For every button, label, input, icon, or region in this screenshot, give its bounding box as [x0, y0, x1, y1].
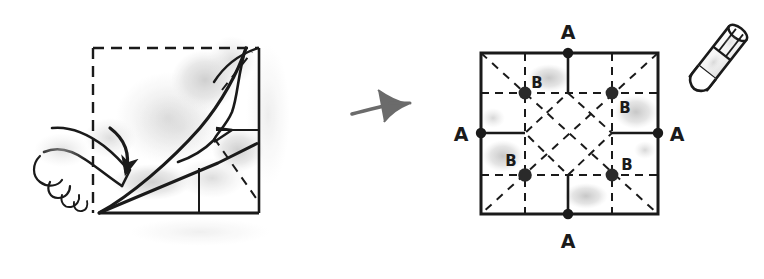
point-b-dot-lower-right	[606, 169, 619, 182]
point-a-label-top: A	[561, 21, 576, 43]
point-a-label-left: A	[454, 123, 469, 145]
origami-diagram-figure: A A A A B B B B	[0, 0, 764, 279]
diagram-canvas: A A A A B B B B	[0, 0, 764, 279]
point-b-label-upper-right: B	[619, 99, 630, 117]
point-b-label-upper-left: B	[531, 74, 542, 92]
point-b-label-lower-right: B	[621, 156, 632, 174]
point-b-dot-upper-left	[519, 87, 532, 100]
hand-shadow	[34, 133, 90, 167]
point-b-dot-lower-left	[518, 168, 532, 182]
point-a-dot-left	[476, 128, 486, 138]
point-a-dot-top	[563, 48, 573, 58]
point-b-dot-upper-right	[606, 87, 619, 100]
point-a-label-right: A	[670, 123, 685, 145]
point-a-label-bottom: A	[561, 230, 576, 252]
point-b-label-lower-left: B	[505, 152, 516, 170]
point-a-dot-right	[653, 128, 663, 138]
point-a-dot-bottom	[563, 209, 573, 219]
